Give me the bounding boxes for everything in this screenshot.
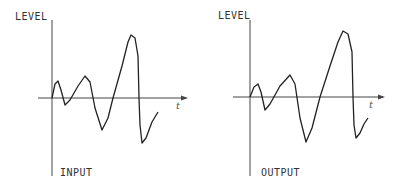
input-caption: INPUT xyxy=(60,168,93,178)
waveform-diagram xyxy=(0,0,403,190)
input-panel xyxy=(38,20,188,176)
output-t-label: t xyxy=(369,99,373,110)
output-caption: OUTPUT xyxy=(261,168,300,178)
input-arrow-icon xyxy=(181,96,188,101)
output-panel xyxy=(233,20,385,176)
input-level-label: LEVEL xyxy=(15,12,48,22)
input-t-label: t xyxy=(176,100,180,111)
output-level-label: LEVEL xyxy=(218,11,251,21)
input-waveform xyxy=(52,35,158,143)
output-waveform xyxy=(250,31,368,142)
output-arrow-icon xyxy=(378,95,385,100)
